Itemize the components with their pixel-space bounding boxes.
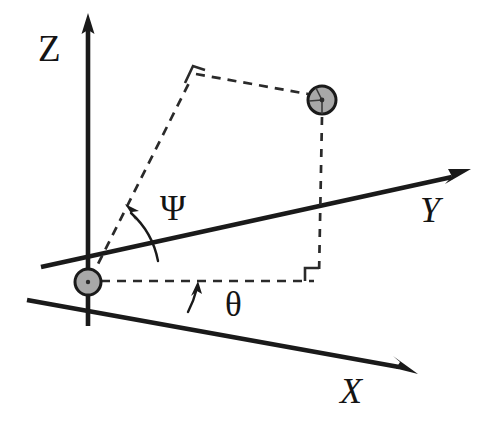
axis-x-line bbox=[27, 300, 399, 367]
coordinate-system-diagram: Z Y X Ψ θ bbox=[0, 0, 493, 426]
axis-x bbox=[27, 300, 418, 374]
labels-group: Z Y X Ψ θ bbox=[38, 28, 444, 411]
particle-node bbox=[308, 86, 336, 114]
figure-canvas: Z Y X Ψ θ bbox=[0, 0, 493, 426]
axis-label-x: X bbox=[338, 371, 364, 411]
vertical-drop-dashed-line bbox=[319, 117, 322, 276]
origin-node bbox=[75, 269, 101, 295]
angle-label-psi: Ψ bbox=[160, 189, 186, 228]
angle-label-theta: θ bbox=[225, 285, 242, 324]
origin-center-dot bbox=[86, 280, 90, 284]
base-vertex-right-angle-icon bbox=[305, 268, 319, 281]
axis-y-line bbox=[41, 177, 452, 267]
axes-group bbox=[27, 13, 471, 374]
particle-center-dot bbox=[320, 98, 325, 103]
top-connector-dashed-line bbox=[196, 74, 308, 94]
radial-dashed-line bbox=[91, 79, 191, 278]
axis-label-y: Y bbox=[420, 190, 444, 230]
axis-y bbox=[41, 169, 471, 267]
right-angle-markers-group bbox=[185, 66, 319, 281]
axis-label-z: Z bbox=[38, 28, 61, 69]
psi-angle-arc bbox=[131, 213, 158, 261]
